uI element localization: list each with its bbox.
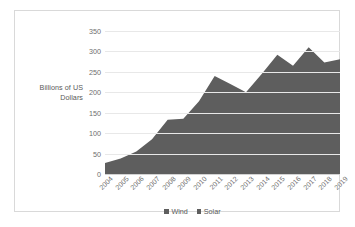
gridline-300: 300 <box>105 51 340 52</box>
gridline-50: 50 <box>105 154 340 155</box>
legend-item-solar[interactable]: Solar <box>197 207 221 216</box>
legend-label: Solar <box>204 207 221 216</box>
y-tick-label-150: 150 <box>89 108 101 117</box>
x-tick-label-2018: 2018 <box>317 175 333 191</box>
y-tick-label-100: 100 <box>89 129 101 138</box>
y-tick-label-350: 350 <box>89 27 101 36</box>
x-tick-label-2016: 2016 <box>286 175 302 191</box>
gridline-150: 150 <box>105 113 340 114</box>
x-tick-label-2007: 2007 <box>145 175 161 191</box>
area-series-wind <box>105 31 340 174</box>
x-tick-label-2015: 2015 <box>270 175 286 191</box>
plot-area: 050100150200250300350 <box>105 31 340 174</box>
y-tick-label-250: 250 <box>89 67 101 76</box>
x-tick-label-2019: 2019 <box>333 175 349 191</box>
y-tick-label-300: 300 <box>89 47 101 56</box>
gridline-250: 250 <box>105 72 340 73</box>
gridline-350: 350 <box>105 31 340 32</box>
y-axis-title: Billions of US Dollars <box>21 83 83 102</box>
legend-item-wind[interactable]: Wind <box>164 207 187 216</box>
gridline-200: 200 <box>105 92 340 93</box>
x-tick-label-2012: 2012 <box>223 175 239 191</box>
x-axis-tick-labels: 2004200520062007200820092010201120122013… <box>105 175 340 209</box>
legend-swatch-icon <box>164 209 169 214</box>
chart-frame: Billions of US Dollars 05010015020025030… <box>14 10 340 212</box>
x-tick-label-2009: 2009 <box>176 175 192 191</box>
legend-label: Wind <box>171 207 187 216</box>
x-tick-label-2017: 2017 <box>302 175 318 191</box>
y-tick-label-200: 200 <box>89 88 101 97</box>
x-tick-label-2006: 2006 <box>129 175 145 191</box>
area-path <box>105 47 340 174</box>
x-tick-label-2005: 2005 <box>114 175 130 191</box>
x-tick-label-2010: 2010 <box>192 175 208 191</box>
gridline-100: 100 <box>105 133 340 134</box>
y-tick-label-50: 50 <box>93 149 101 158</box>
y-tick-label-0: 0 <box>97 170 101 179</box>
x-tick-label-2008: 2008 <box>161 175 177 191</box>
x-tick-label-2011: 2011 <box>208 175 224 191</box>
x-tick-label-2013: 2013 <box>239 175 255 191</box>
chart-legend: WindSolar <box>15 207 355 216</box>
legend-swatch-icon <box>197 209 202 214</box>
x-tick-label-2014: 2014 <box>255 175 271 191</box>
